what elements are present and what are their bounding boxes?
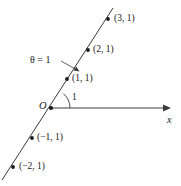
angle-arc <box>63 94 70 109</box>
point-label-neg2-1: (−2, 1) <box>19 162 45 172</box>
polar-line-figure: (3, 1) (2, 1) (1, 1) (−1, 1) (−2, 1) θ =… <box>0 0 181 186</box>
data-point-dot <box>11 165 15 169</box>
data-point-dot <box>106 17 110 21</box>
origin-label: O <box>39 101 47 112</box>
origin-dot <box>49 106 53 110</box>
data-point-dot <box>65 77 69 81</box>
point-label-1-1: (1, 1) <box>72 74 93 84</box>
data-point-dot <box>30 136 34 140</box>
angle-value-label: 1 <box>72 93 77 103</box>
theta-line <box>2 8 113 180</box>
theta-equation-label: θ = 1 <box>30 55 50 65</box>
figure-canvas <box>0 0 181 186</box>
point-label-3-1: (3, 1) <box>114 14 135 24</box>
point-label-2-1: (2, 1) <box>93 45 114 55</box>
x-axis-arrowhead <box>163 105 171 112</box>
point-label-neg1-1: (−1, 1) <box>37 133 63 143</box>
theta-leader-line <box>61 61 77 70</box>
data-point-dot <box>86 48 90 52</box>
x-axis-label: x <box>167 115 171 125</box>
